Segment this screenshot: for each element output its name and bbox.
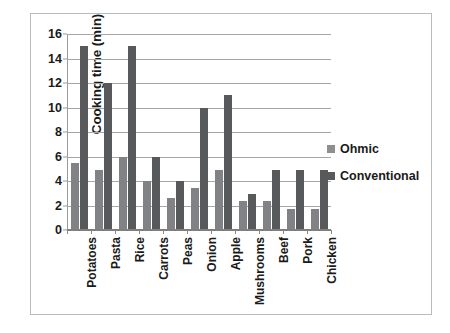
- y-axis-tick-label: 16: [48, 27, 62, 41]
- x-axis-tick-label-peas: Peas: [181, 237, 195, 265]
- bar-ohmic-pasta: [95, 170, 103, 230]
- bar-group: [283, 34, 307, 230]
- legend-item-conventional[interactable]: Conventional: [327, 169, 427, 183]
- legend-item-ohmic[interactable]: Ohmic: [327, 142, 427, 156]
- bar-group: [211, 34, 235, 230]
- bar-conventional-peas: [176, 181, 184, 230]
- bar-conventional-carrots: [152, 157, 160, 231]
- bar-conventional-mushrooms: [248, 194, 256, 230]
- bar-conventional-rice: [128, 46, 136, 230]
- x-axis-tick-mark: [283, 230, 284, 234]
- x-axis-tick-mark: [91, 230, 92, 234]
- x-axis-tick-label-rice: Rice: [133, 237, 147, 262]
- bar-group: [259, 34, 283, 230]
- y-axis-tick-label: 6: [55, 150, 62, 164]
- bar-group: [307, 34, 331, 230]
- bar-ohmic-carrots: [143, 181, 151, 230]
- bar-ohmic-rice: [119, 157, 127, 231]
- bar-group: [91, 34, 115, 230]
- x-axis-tick-label-pasta: Pasta: [109, 237, 123, 269]
- legend-swatch-icon: [327, 145, 335, 153]
- x-axis-tick-mark: [67, 230, 68, 234]
- gridline: [67, 230, 331, 231]
- chart-frame: Cooking time (min) 0246810121416 Potatoe…: [30, 13, 432, 315]
- plot-area: 0246810121416 PotatoesPastaRiceCarrotsPe…: [67, 34, 331, 230]
- bar-conventional-beef: [272, 170, 280, 230]
- x-axis-tick-label-carrots: Carrots: [157, 237, 171, 280]
- x-axis-tick-mark: [331, 230, 332, 234]
- bar-group: [235, 34, 259, 230]
- legend-label: Conventional: [340, 169, 419, 183]
- bar-ohmic-apple: [215, 170, 223, 230]
- x-axis-tick-label-onion: Onion: [205, 237, 219, 272]
- x-axis-tick-label-mushrooms: Mushrooms: [253, 237, 267, 305]
- bar-conventional-pasta: [104, 83, 112, 230]
- x-axis-tick-label-apple: Apple: [229, 237, 243, 270]
- bar-ohmic-beef: [263, 201, 271, 230]
- y-axis-tick-label: 0: [55, 223, 62, 237]
- legend-swatch-icon: [327, 172, 335, 180]
- bar-conventional-apple: [224, 95, 232, 230]
- x-axis-line: [67, 229, 331, 230]
- bar-ohmic-onion: [191, 188, 199, 230]
- bar-ohmic-pork: [287, 209, 295, 230]
- x-axis-tick-mark: [115, 230, 116, 234]
- x-axis-tick-mark: [163, 230, 164, 234]
- y-axis-tick-label: 14: [48, 52, 62, 66]
- x-axis-tick-label-potatoes: Potatoes: [85, 237, 99, 288]
- legend-label: Ohmic: [340, 142, 379, 156]
- x-axis-tick-mark: [259, 230, 260, 234]
- bar-group: [67, 34, 91, 230]
- bar-conventional-pork: [296, 170, 304, 230]
- bar-ohmic-peas: [167, 198, 175, 230]
- x-axis-tick-mark: [139, 230, 140, 234]
- y-axis-tick-label: 12: [48, 76, 62, 90]
- bar-group: [187, 34, 211, 230]
- x-axis-tick-mark: [307, 230, 308, 234]
- bar-conventional-onion: [200, 108, 208, 231]
- bar-group: [115, 34, 139, 230]
- bar-group: [139, 34, 163, 230]
- y-axis-tick-label: 10: [48, 101, 62, 115]
- bar-ohmic-potatoes: [71, 163, 79, 230]
- chart-legend: OhmicConventional: [327, 142, 427, 196]
- x-axis-tick-mark: [187, 230, 188, 234]
- bar-ohmic-chicken: [311, 209, 319, 230]
- x-axis-tick-label-chicken: Chicken: [325, 237, 339, 284]
- x-axis-tick-label-beef: Beef: [277, 237, 291, 263]
- bar-ohmic-mushrooms: [239, 201, 247, 230]
- x-axis-tick-label-pork: Pork: [301, 237, 315, 264]
- bars-layer: [67, 34, 331, 230]
- y-axis-tick-label: 4: [55, 174, 62, 188]
- y-axis-tick-label: 2: [55, 199, 62, 213]
- bar-group: [163, 34, 187, 230]
- y-axis-tick-label: 8: [55, 125, 62, 139]
- bar-conventional-potatoes: [80, 46, 88, 230]
- x-axis-tick-mark: [211, 230, 212, 234]
- x-axis-tick-mark: [235, 230, 236, 234]
